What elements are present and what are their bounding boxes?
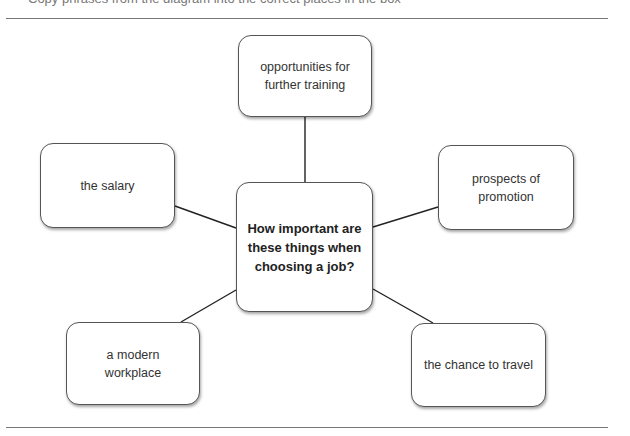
node-label: a modern workplace [77,346,189,382]
node-further-training: opportunities for further training [238,35,372,117]
node-promotion: prospects of promotion [438,145,574,230]
center-question: How important are these things when choo… [236,182,373,312]
node-label: the salary [80,177,134,195]
node-label: the chance to travel [424,356,533,374]
connector-bottom-right [373,289,433,323]
node-chance-to-travel: the chance to travel [411,323,546,407]
node-label: prospects of promotion [449,170,563,206]
center-label: How important are these things when choo… [247,219,362,276]
node-modern-workplace: a modern workplace [66,322,200,405]
connector-bottom-left [181,290,236,322]
connector-left [175,206,236,228]
node-label: opportunities for further training [249,58,361,94]
node-salary: the salary [40,143,175,228]
connector-right [373,207,438,227]
